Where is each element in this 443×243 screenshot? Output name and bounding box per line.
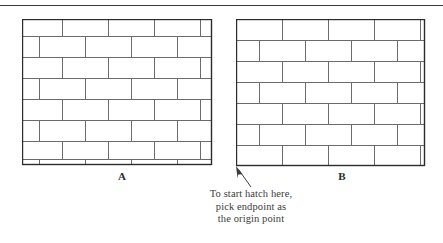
figure-a-svg	[22, 19, 213, 166]
figure-a-hatch-lines	[22, 19, 213, 165]
figure-a-boundary	[23, 20, 212, 165]
callout-line-3: the origin point	[176, 213, 326, 226]
figure-b-svg	[236, 19, 426, 167]
figure-b-hatch-lines	[236, 19, 426, 166]
callout-text: To start hatch here, pick endpoint as th…	[176, 188, 326, 226]
arrowhead-icon	[236, 166, 243, 179]
figure-b-label: B	[332, 170, 352, 182]
top-horizontal-rule	[0, 5, 443, 6]
figure-a-brick-hatch	[22, 19, 213, 166]
figure-a-label: A	[112, 170, 132, 182]
figure-b-brick-hatch	[236, 19, 426, 167]
figure-page: A B To start hatch here, pick endpoint a…	[0, 0, 443, 243]
callout-line-1: To start hatch here,	[176, 188, 326, 201]
figure-b-boundary	[237, 20, 425, 166]
callout-line-2: pick endpoint as	[176, 201, 326, 214]
